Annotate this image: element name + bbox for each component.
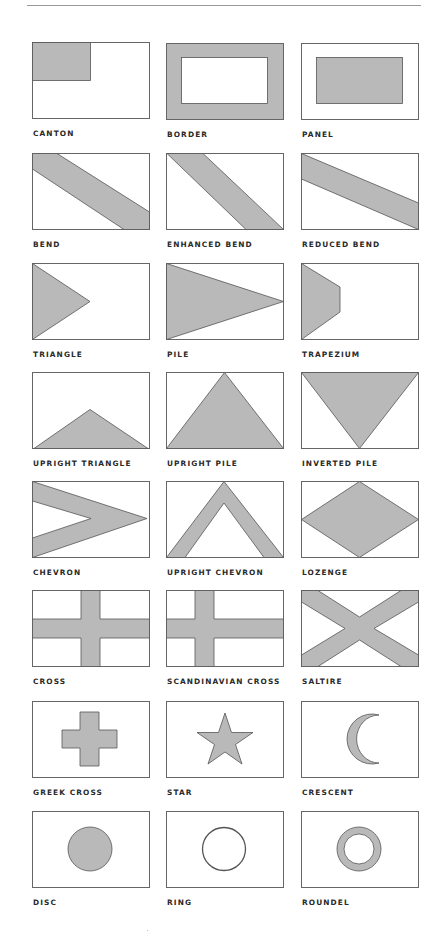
shape-upright-chevron: UPRIGHT CHEVRON xyxy=(166,481,284,558)
upright-pile-icon xyxy=(166,372,284,449)
upright-triangle-icon xyxy=(32,372,150,449)
shape-crescent: CRESCENT xyxy=(301,701,419,778)
shape-label: BEND xyxy=(33,240,60,249)
chevron-icon xyxy=(32,481,150,558)
shape-label: ROUNDEL xyxy=(302,898,350,907)
lozenge-icon xyxy=(301,481,419,558)
shape-border: BORDER xyxy=(166,43,284,120)
shape-label: UPRIGHT CHEVRON xyxy=(167,568,264,577)
shape-bend: BEND xyxy=(32,153,150,230)
shape-reduced-bend: REDUCED BEND xyxy=(301,153,419,230)
trapezium-icon xyxy=(301,263,419,340)
canton-icon xyxy=(32,42,150,119)
shape-label: SCANDINAVIAN CROSS xyxy=(167,677,280,686)
shape-label: UPRIGHT PILE xyxy=(167,459,238,468)
shape-star: STAR xyxy=(166,701,284,778)
crescent-icon xyxy=(301,701,419,778)
saltire-icon xyxy=(301,590,419,667)
shape-label: ENHANCED BEND xyxy=(167,240,253,249)
disc-icon xyxy=(32,811,150,888)
shape-label: GREEK CROSS xyxy=(33,788,103,797)
shape-panel: PANEL xyxy=(301,43,419,120)
cross-icon xyxy=(32,590,150,667)
shape-upright-triangle: UPRIGHT TRIANGLE xyxy=(32,372,150,449)
shape-greek-cross: GREEK CROSS xyxy=(32,701,150,778)
star-icon xyxy=(166,701,284,778)
shape-label: REDUCED BEND xyxy=(302,240,380,249)
stray-mark xyxy=(147,930,148,931)
shape-pile: PILE xyxy=(166,263,284,340)
inverted-pile-icon xyxy=(301,372,419,449)
shape-disc: DISC xyxy=(32,811,150,888)
shape-label: SALTIRE xyxy=(302,677,343,686)
scandinavian-cross-icon xyxy=(166,590,284,667)
shape-label: PILE xyxy=(167,350,189,359)
shape-label: INVERTED PILE xyxy=(302,459,378,468)
enhanced-bend-icon xyxy=(166,153,284,230)
shape-label: BORDER xyxy=(167,130,208,139)
panel-icon xyxy=(301,43,419,120)
roundel-icon xyxy=(301,811,419,888)
shape-ring: RING xyxy=(166,811,284,888)
shape-label: TRAPEZIUM xyxy=(302,350,360,359)
shape-label: CANTON xyxy=(33,129,74,138)
shape-label: UPRIGHT TRIANGLE xyxy=(33,459,132,468)
shape-saltire: SALTIRE xyxy=(301,590,419,667)
pile-icon xyxy=(166,263,284,340)
shape-inverted-pile: INVERTED PILE xyxy=(301,372,419,449)
shape-trapezium: TRAPEZIUM xyxy=(301,263,419,340)
shape-chevron: CHEVRON xyxy=(32,481,150,558)
shape-label: LOZENGE xyxy=(302,568,348,577)
shape-roundel: ROUNDEL xyxy=(301,811,419,888)
shape-label: CROSS xyxy=(33,677,66,686)
shape-label: PANEL xyxy=(302,130,334,139)
shape-upright-pile: UPRIGHT PILE xyxy=(166,372,284,449)
shape-enhanced-bend: ENHANCED BEND xyxy=(166,153,284,230)
shape-canton: CANTON xyxy=(32,42,150,119)
ring-icon xyxy=(166,811,284,888)
upright-chevron-icon xyxy=(166,481,284,558)
shape-label: TRIANGLE xyxy=(33,350,83,359)
shape-label: RING xyxy=(167,898,192,907)
shape-label: STAR xyxy=(167,788,193,797)
shape-label: CHEVRON xyxy=(33,568,81,577)
shape-triangle: TRIANGLE xyxy=(32,263,150,340)
top-divider xyxy=(27,5,421,6)
shape-scandinavian-cross: SCANDINAVIAN CROSS xyxy=(166,590,284,667)
reduced-bend-icon xyxy=(301,153,419,230)
border-icon xyxy=(166,43,284,120)
shape-label: CRESCENT xyxy=(302,788,354,797)
shape-cross: CROSS xyxy=(32,590,150,667)
triangle-icon xyxy=(32,263,150,340)
bend-icon xyxy=(32,153,150,230)
greek-cross-icon xyxy=(32,701,150,778)
shape-lozenge: LOZENGE xyxy=(301,481,419,558)
shape-label: DISC xyxy=(33,898,57,907)
